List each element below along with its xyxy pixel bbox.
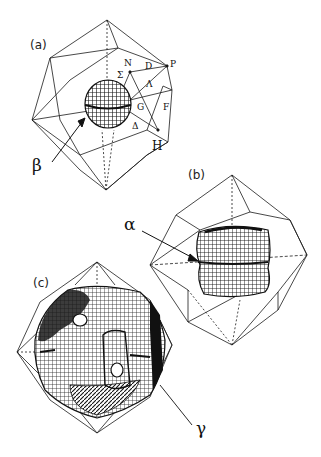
figure-drawing (0, 0, 321, 457)
gamma-pocket-surface (35, 286, 165, 418)
point-label-F: F (163, 103, 169, 112)
panel-label-b: (b) (188, 168, 205, 182)
panel-label-a: (a) (30, 38, 47, 52)
panel-label-c: (c) (33, 276, 49, 290)
point-label-D: D (145, 62, 152, 71)
beta-pocket-surface (85, 80, 131, 128)
point-label-P: P (170, 60, 176, 69)
gamma-pointer (160, 385, 192, 425)
figure: (a) (b) (c) β α γ N D P Σ Λ G F Δ H (0, 0, 321, 457)
point-label-H: H (152, 140, 162, 152)
alpha-label: α (124, 214, 135, 234)
point-label-Sigma: Σ (117, 71, 123, 80)
point-label-G: G (137, 103, 144, 112)
point-label-N: N (124, 59, 132, 68)
alpha-arrow (142, 231, 198, 261)
point-label-Lambda: Λ (146, 80, 153, 89)
beta-label: β (32, 155, 42, 175)
point-label-Delta: Δ (132, 122, 139, 131)
gamma-label: γ (196, 418, 206, 438)
alpha-pocket-surface (197, 226, 270, 296)
